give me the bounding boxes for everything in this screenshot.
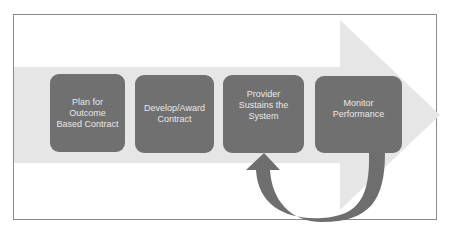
step-label-line: Based Contract <box>56 119 118 130</box>
step-label-line: Monitor <box>333 98 385 109</box>
step-label-line: Contract <box>144 114 205 125</box>
step-plan-outcome-contract: Plan for Outcome Based Contract <box>50 74 125 152</box>
step-label-line: System <box>239 111 289 122</box>
step-label-line: Provider <box>239 89 289 100</box>
step-label-line: Plan for <box>56 97 118 108</box>
step-label-line: Sustains the <box>239 100 289 111</box>
step-develop-award-contract: Develop/Award Contract <box>135 75 214 153</box>
step-label-line: Outcome <box>56 108 118 119</box>
step-monitor-performance: Monitor Performance <box>315 76 402 153</box>
step-label-line: Performance <box>333 109 385 120</box>
step-label-line: Develop/Award <box>144 103 205 114</box>
step-provider-sustains-system: Provider Sustains the System <box>223 75 304 153</box>
